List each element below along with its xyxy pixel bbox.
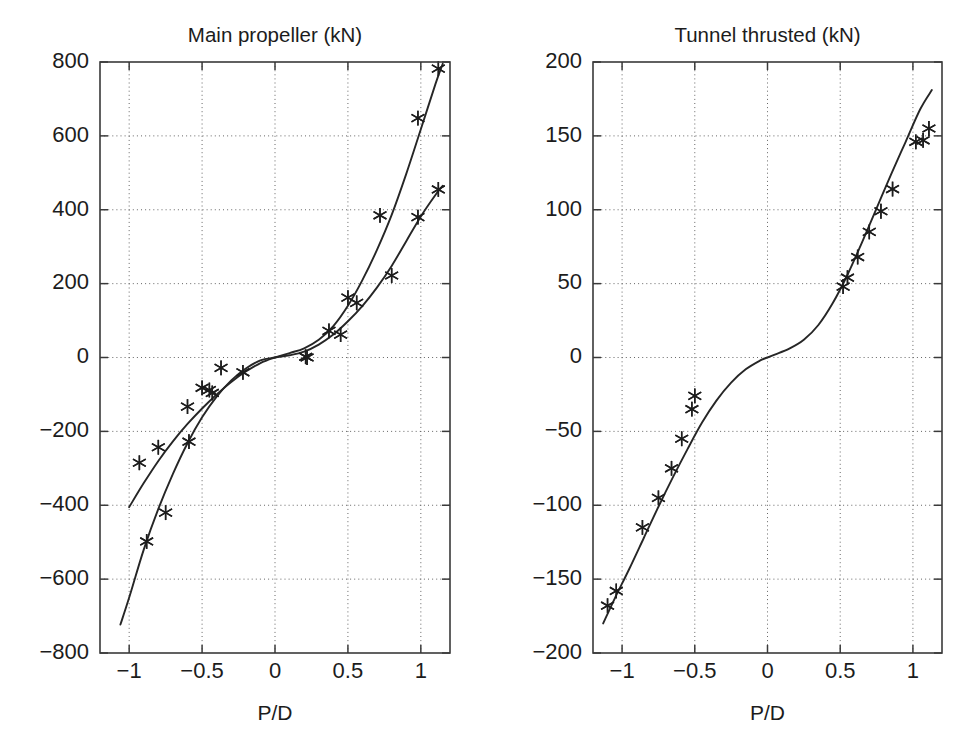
panel-main-propeller: Main propeller (kN)−800−600−400−20002004… [39, 23, 450, 724]
data-point-marker [432, 182, 445, 197]
data-point-marker [140, 534, 153, 549]
data-point-marker [183, 434, 196, 449]
y-tick-label: −600 [39, 565, 89, 590]
x-axis-label-tunnel-thruster: P/D [750, 701, 785, 724]
x-tick-label: 0.5 [333, 658, 364, 683]
ticks-main-propeller: −800−600−400−2000200400600800−1−0.500.51 [39, 48, 450, 683]
y-tick-label: −200 [532, 639, 582, 664]
plot-title-main-propeller: Main propeller (kN) [188, 23, 362, 46]
y-tick-label: 150 [545, 122, 582, 147]
data-point-marker [923, 121, 936, 136]
x-tick-label: −0.5 [673, 658, 716, 683]
x-tick-label: −0.5 [180, 658, 223, 683]
data-point-marker [886, 182, 899, 197]
series-group-main-propeller [120, 64, 442, 625]
series-line-curve-upper [129, 64, 443, 507]
figure-canvas: Main propeller (kN)−800−600−400−20002004… [0, 0, 979, 731]
data-point-marker [215, 360, 228, 375]
y-tick-label: 800 [52, 48, 89, 73]
data-point-marker [685, 402, 698, 417]
data-point-marker [181, 399, 194, 414]
y-tick-label: −150 [532, 565, 582, 590]
series-line-curve-lower [120, 186, 442, 625]
y-tick-label: −200 [39, 417, 89, 442]
x-tick-label: 0 [761, 658, 773, 683]
x-tick-label: 0 [269, 658, 281, 683]
series-group-tunnel-thruster [603, 90, 932, 623]
data-point-marker [385, 268, 398, 283]
markers-tunnel-thruster [601, 121, 935, 613]
x-tick-label: −1 [117, 658, 142, 683]
y-tick-label: −100 [532, 491, 582, 516]
data-point-marker [334, 327, 347, 342]
y-tick-label: 50 [558, 269, 582, 294]
y-tick-label: 600 [52, 122, 89, 147]
x-tick-label: 1 [907, 658, 919, 683]
data-point-marker [875, 204, 888, 219]
y-tick-label: −400 [39, 491, 89, 516]
y-tick-label: 100 [545, 196, 582, 221]
x-tick-label: 0.5 [825, 658, 856, 683]
data-point-marker [133, 455, 146, 470]
data-point-marker [159, 505, 172, 520]
panel-tunnel-thruster: Tunnel thrusted (kN)−200−150−100−5005010… [532, 23, 942, 724]
x-tick-label: 1 [415, 658, 427, 683]
two-panel-chart: Main propeller (kN)−800−600−400−20002004… [0, 0, 979, 731]
data-point-marker [675, 431, 688, 446]
y-tick-label: 200 [52, 269, 89, 294]
y-tick-label: −50 [545, 417, 582, 442]
y-tick-label: 0 [570, 343, 582, 368]
data-point-marker [688, 389, 701, 404]
series-line-curve [603, 90, 932, 623]
y-tick-label: 400 [52, 196, 89, 221]
ticks-tunnel-thruster: −200−150−100−50050100150200−1−0.500.51 [532, 48, 942, 683]
data-point-marker [665, 461, 678, 476]
y-tick-label: −800 [39, 639, 89, 664]
x-tick-label: −1 [610, 658, 635, 683]
y-tick-label: 200 [545, 48, 582, 73]
y-tick-label: 0 [77, 343, 89, 368]
data-point-marker [206, 386, 219, 401]
data-point-marker [412, 210, 425, 225]
data-point-marker [152, 440, 165, 455]
plot-title-tunnel-thruster: Tunnel thrusted (kN) [674, 23, 860, 46]
markers-main-propeller [133, 61, 445, 549]
x-axis-label-main-propeller: P/D [257, 701, 292, 724]
